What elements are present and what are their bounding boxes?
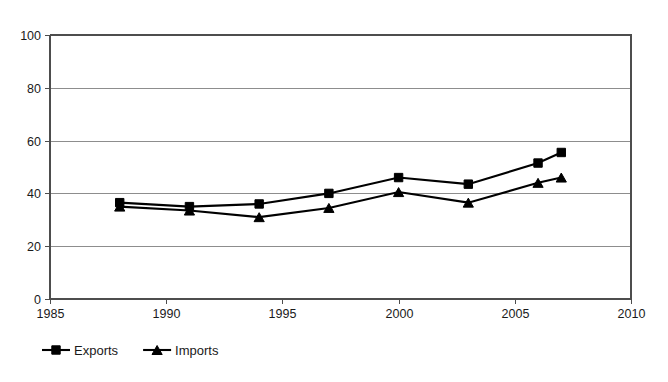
data-point-marker-exports [325,189,333,197]
y-tick-label: 80 [27,82,41,96]
legend-item-exports[interactable]: Exports [42,343,119,358]
y-tick-label: 60 [27,135,41,149]
legend-label: Exports [74,343,119,358]
x-tick-label: 2005 [502,307,530,321]
chart-container: 020406080100 198519901995200020052010 Ex… [0,0,668,382]
y-tick-label: 40 [27,187,41,201]
x-tick-label: 1990 [153,307,181,321]
y-axis-ticks: 020406080100 [20,29,50,307]
legend-item-imports[interactable]: Imports [143,343,219,358]
line-chart: 020406080100 198519901995200020052010 Ex… [0,0,668,382]
x-tick-label: 2000 [386,307,414,321]
data-point-marker-exports [464,180,472,188]
square-marker-icon [52,346,60,354]
data-point-marker-exports [557,148,565,156]
x-tick-label: 1995 [269,307,297,321]
data-point-marker-exports [394,173,402,181]
x-axis-ticks: 198519901995200020052010 [37,299,646,321]
y-tick-label: 100 [20,29,41,43]
data-point-marker-exports [534,159,542,167]
x-tick-label: 2010 [618,307,646,321]
y-tick-label: 0 [34,293,41,307]
x-tick-label: 1985 [37,307,65,321]
legend-label: Imports [175,343,219,358]
y-tick-label: 20 [27,240,41,254]
chart-legend: ExportsImports [42,343,219,358]
data-point-marker-exports [255,200,263,208]
plot-area-background [50,35,631,299]
